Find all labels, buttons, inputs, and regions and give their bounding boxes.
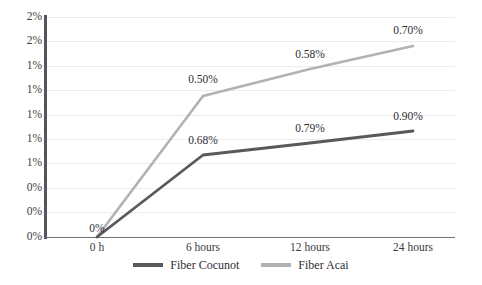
data-point-label: 0% <box>89 222 104 234</box>
data-point-label: 0.90% <box>393 110 423 122</box>
line-chart: 2%2%1%1%1%1%1%0%0%0% 0 h6 hours12 hours2… <box>0 0 482 285</box>
legend-label: Fiber Acai <box>298 259 348 271</box>
series-line-fiber-acai <box>97 46 413 237</box>
data-point-label: 0.58% <box>295 48 325 60</box>
data-point-label: 0.79% <box>295 122 325 134</box>
data-point-label: 0.68% <box>188 134 218 146</box>
legend-swatch-icon <box>261 263 291 266</box>
legend-label: Fiber Cocunot <box>170 259 239 271</box>
legend-item[interactable]: Fiber Acai <box>261 259 348 271</box>
legend-item[interactable]: Fiber Cocunot <box>133 259 239 271</box>
chart-legend: Fiber CocunotFiber Acai <box>0 259 482 271</box>
data-point-label: 0.50% <box>188 73 218 85</box>
series-lines <box>0 0 482 285</box>
series-line-fiber-cocunot <box>97 131 413 237</box>
data-point-label: 0.70% <box>393 24 423 36</box>
legend-swatch-icon <box>133 263 163 266</box>
